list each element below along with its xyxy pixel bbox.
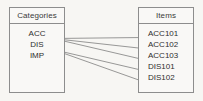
item-acc103[interactable]: ACC103 — [148, 51, 178, 60]
item-acc101[interactable]: ACC101 — [148, 29, 178, 38]
items-box: Items ACC101 ACC102 ACC103 DIS101 DIS102 — [138, 7, 194, 93]
category-item-acc[interactable]: ACC — [29, 29, 46, 38]
edge-dis-dis101 — [53, 50, 143, 71]
edge-dis-dis102 — [53, 50, 143, 82]
category-item-imp[interactable]: IMP — [30, 51, 44, 60]
categories-box-body: ACC DIS IMP — [10, 24, 64, 92]
category-item-dis[interactable]: DIS — [30, 40, 43, 49]
edge-acc-acc103 — [53, 39, 143, 60]
item-acc102[interactable]: ACC102 — [148, 40, 178, 49]
item-dis102[interactable]: DIS102 — [148, 73, 175, 82]
edge-acc-acc101 — [53, 38, 143, 39]
items-box-body: ACC101 ACC102 ACC103 DIS101 DIS102 — [139, 24, 193, 92]
diagram-canvas: Categories ACC DIS IMP Items ACC101 ACC1… — [0, 0, 203, 101]
item-dis101[interactable]: DIS101 — [148, 62, 175, 71]
categories-box-header: Categories — [10, 8, 64, 24]
edge-acc-acc102 — [53, 39, 143, 49]
items-box-header: Items — [139, 8, 193, 24]
categories-box: Categories ACC DIS IMP — [9, 7, 65, 93]
